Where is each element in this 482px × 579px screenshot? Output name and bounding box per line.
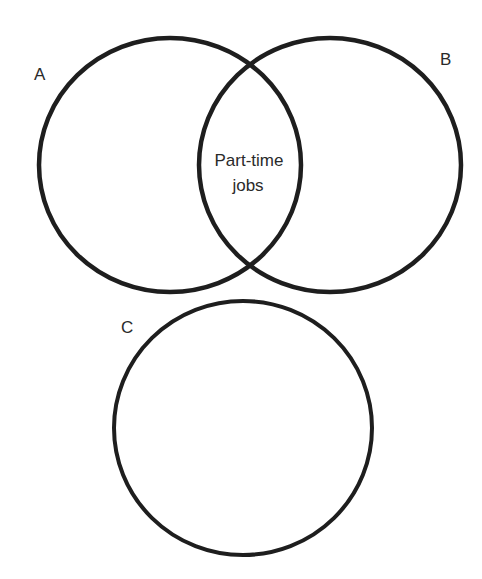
intersection-ab-label-line1: Part-time xyxy=(215,151,284,170)
intersection-ab-label-line2: jobs xyxy=(231,176,263,195)
circle-c xyxy=(114,301,372,555)
label-c: C xyxy=(121,318,133,337)
label-b: B xyxy=(440,50,451,69)
venn-diagram: A B C Part-time jobs xyxy=(0,0,482,579)
label-a: A xyxy=(34,65,46,84)
